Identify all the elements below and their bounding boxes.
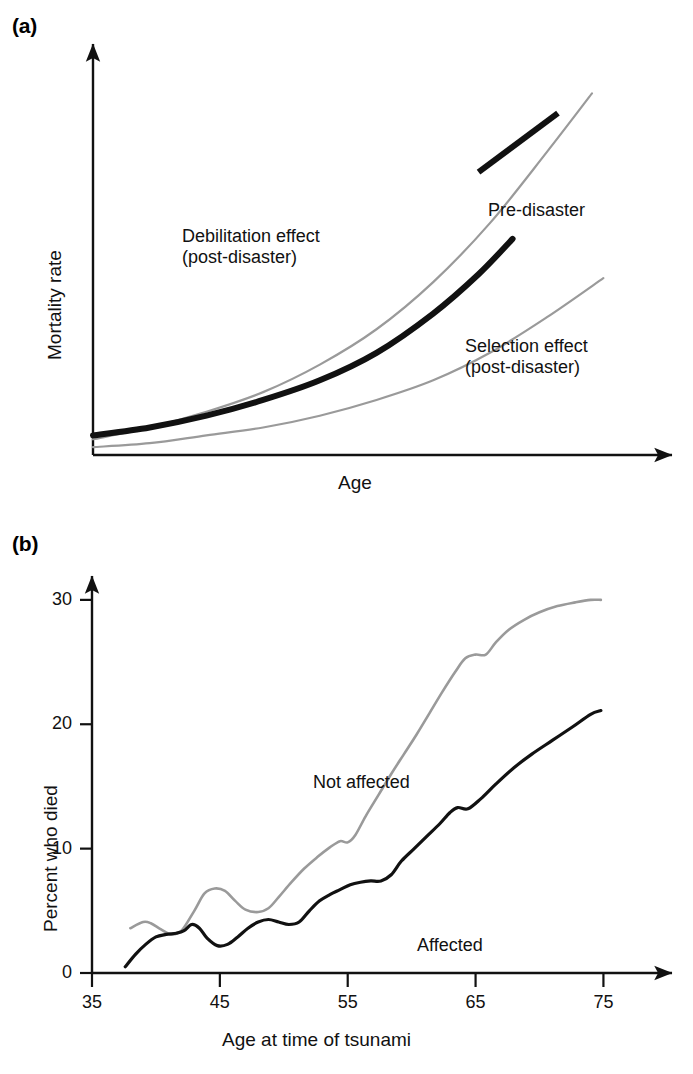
- label-affected: Affected: [417, 935, 483, 956]
- panel-b-x-ticks: [92, 973, 603, 987]
- curve-not-affected: [130, 600, 601, 935]
- panel-b-x-tick-label: 65: [446, 992, 506, 1013]
- panel-a: (a) Mortality rate Age Debilitation effe…: [0, 0, 693, 520]
- panel-b: (b) Percent who died Age at time of tsun…: [0, 520, 693, 1074]
- label-pre-disaster: Pre-disaster: [488, 200, 585, 221]
- panel-b-x-axis-title: Age at time of tsunami: [222, 1029, 411, 1051]
- panel-a-y-axis-title: Mortality rate: [44, 250, 66, 360]
- panel-b-x-tick-label: 45: [190, 992, 250, 1013]
- label-selection-effect: Selection effect (post-disaster): [465, 336, 588, 378]
- panel-b-y-tick-label: 0: [28, 962, 72, 983]
- panel-b-x-tick-label: 75: [573, 992, 633, 1013]
- legend-swatch-pre-disaster: [479, 113, 558, 172]
- curve-affected: [125, 711, 601, 967]
- panel-b-y-tick-label: 10: [28, 838, 72, 859]
- label-debilitation-effect: Debilitation effect (post-disaster): [182, 226, 320, 268]
- panel-b-plot: [0, 520, 693, 1074]
- panel-b-y-ticks: [80, 600, 92, 973]
- panel-a-plot: [0, 0, 693, 520]
- panel-b-y-tick-label: 30: [28, 589, 72, 610]
- figure-root: (a) Mortality rate Age Debilitation effe…: [0, 0, 693, 1074]
- label-not-affected: Not affected: [313, 772, 410, 793]
- panel-b-x-tick-label: 55: [318, 992, 378, 1013]
- panel-b-y-tick-label: 20: [28, 713, 72, 734]
- panel-a-x-axis-title: Age: [338, 472, 372, 494]
- panel-b-x-tick-label: 35: [62, 992, 122, 1013]
